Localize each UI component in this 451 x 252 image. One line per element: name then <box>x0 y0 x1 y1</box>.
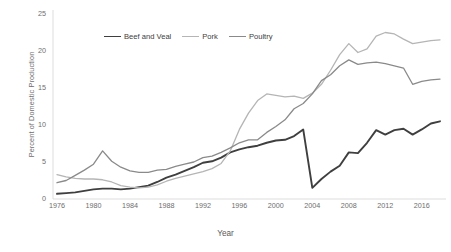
x-tick-label: 1976 <box>37 202 77 209</box>
line-chart: Percent of Domestic Production 051015202… <box>0 0 451 252</box>
x-tick-label: 2012 <box>365 202 405 209</box>
x-tick-label: 1992 <box>183 202 223 209</box>
x-tick-label: 2000 <box>256 202 296 209</box>
legend-item-pork: Pork <box>182 33 218 41</box>
chart-legend: Beef and Veal Pork Poultry <box>104 33 273 41</box>
x-tick-label: 2008 <box>329 202 369 209</box>
x-tick-label: 1984 <box>110 202 150 209</box>
x-tick-label: 2004 <box>292 202 332 209</box>
legend-swatch-pork <box>182 36 199 37</box>
x-tick-label: 1980 <box>73 202 113 209</box>
x-tick-label: 1996 <box>219 202 259 209</box>
legend-item-beef-and-veal: Beef and Veal <box>104 33 171 41</box>
legend-swatch-poultry <box>229 36 246 37</box>
legend-label-pork: Pork <box>202 33 218 41</box>
legend-item-poultry: Poultry <box>229 33 273 41</box>
legend-label-poultry: Poultry <box>249 33 273 41</box>
x-tick-label: 1988 <box>146 202 186 209</box>
x-tick-label: 2016 <box>402 202 442 209</box>
legend-swatch-beef-and-veal <box>104 36 121 37</box>
x-axis-title: Year <box>0 229 451 238</box>
legend-label-beef-and-veal: Beef and Veal <box>124 33 171 41</box>
